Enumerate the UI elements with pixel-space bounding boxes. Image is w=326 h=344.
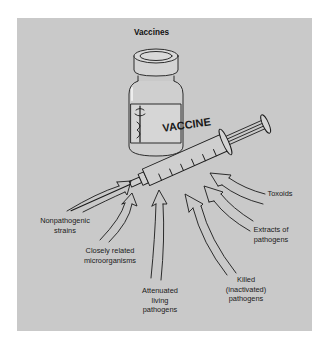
label-closely-related-microorganisms: Closely related microorganisms <box>67 246 153 265</box>
diagram-title: Vaccines <box>134 28 169 37</box>
label-killed-inactivated-pathogens: Killed (inactivated) pathogens <box>212 275 280 304</box>
vaccine-vial-icon <box>129 49 183 156</box>
diagram-panel: VACCINE <box>17 18 312 331</box>
label-toxoids: Toxoids <box>255 189 305 199</box>
label-nonpathogenic-strains: Nonpathogenic strains <box>25 216 105 235</box>
label-attenuated-living-pathogens: Attenuated living pathogens <box>127 286 193 315</box>
arrow-closely-related-icon <box>100 193 137 242</box>
arrow-nonpathogenic-icon <box>67 181 131 212</box>
arrow-attenuated-icon <box>151 190 167 280</box>
label-extracts-of-pathogens: Extracts of pathogens <box>237 225 305 244</box>
arrow-killed-icon <box>185 194 236 275</box>
